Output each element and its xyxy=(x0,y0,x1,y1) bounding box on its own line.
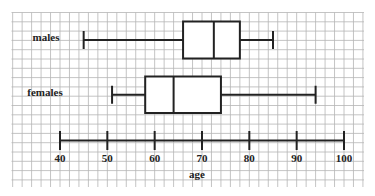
category-label: females xyxy=(27,86,63,98)
x-axis-ticks: 405060708090100 xyxy=(55,131,353,164)
x-tick-label: 50 xyxy=(102,152,114,164)
x-axis: 405060708090100 age xyxy=(55,131,353,180)
x-tick-label: 80 xyxy=(244,152,256,164)
x-tick-label: 40 xyxy=(55,152,67,164)
box-plots: malesfemales xyxy=(27,22,315,114)
category-label: males xyxy=(33,31,61,43)
x-tick-label: 90 xyxy=(291,152,303,164)
x-tick-label: 60 xyxy=(149,152,161,164)
box-plot-females: females xyxy=(27,77,315,114)
x-tick-label: 70 xyxy=(197,152,209,164)
iqr-box xyxy=(183,22,240,59)
iqr-box xyxy=(145,77,221,114)
x-tick-label: 100 xyxy=(336,152,353,164)
box-plot-chart: 405060708090100 age malesfemales xyxy=(0,0,375,196)
x-axis-title: age xyxy=(189,168,205,180)
